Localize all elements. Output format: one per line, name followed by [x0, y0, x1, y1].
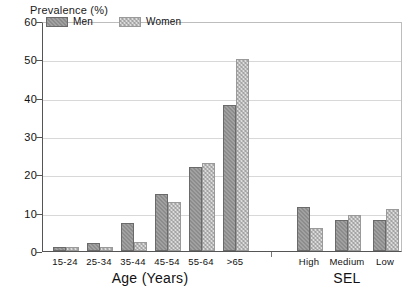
x-tick-label: 45-54: [154, 256, 179, 267]
bar-age-4554-women: [168, 202, 181, 251]
y-tick-mark: [36, 60, 42, 61]
bar-age-1524-men: [53, 247, 66, 251]
y-tick-label: 20: [11, 169, 37, 181]
y-tick-label: 30: [11, 131, 37, 143]
bar-age-2534-women: [100, 247, 113, 251]
plot-area: [42, 22, 402, 252]
bar-sel-High-men: [297, 207, 310, 251]
y-tick-mark: [36, 252, 42, 253]
y-tick-label: 40: [11, 93, 37, 105]
x-tick-label: 55-64: [188, 256, 213, 267]
legend-label-men: Men: [73, 16, 93, 27]
x-tick-label: Medium: [330, 256, 365, 267]
legend-entry-men: Men: [46, 16, 93, 27]
group-title-age: Age (Years): [112, 270, 189, 286]
legend-label-women: Women: [146, 16, 181, 27]
bar-sel-High-women: [310, 228, 323, 251]
bar-sel-Medium-men: [335, 220, 348, 251]
y-tick-label: 0: [11, 246, 37, 258]
x-tick-label: High: [299, 256, 319, 267]
x-tick-label: 25-34: [86, 256, 111, 267]
gridline: [43, 61, 401, 62]
x-tick-label: >65: [227, 256, 244, 267]
y-tick-mark: [36, 214, 42, 215]
bar-age-65-men: [223, 105, 236, 251]
legend-swatch-women-icon: [119, 17, 141, 27]
chart-legend: Men Women: [46, 16, 181, 27]
bar-sel-Low-women: [386, 209, 399, 251]
y-tick-mark: [36, 99, 42, 100]
x-axis-separator-tick: [271, 252, 272, 257]
legend-entry-women: Women: [119, 16, 181, 27]
bar-age-1524-women: [66, 247, 79, 251]
y-tick-label: 10: [11, 208, 37, 220]
y-tick-mark: [36, 137, 42, 138]
x-tick-label: Low: [376, 256, 394, 267]
y-axis-title: Prevalence (%): [30, 4, 108, 16]
bar-age-5564-women: [202, 163, 215, 251]
y-tick-label: 50: [11, 54, 37, 66]
group-title-sel: SEL: [333, 270, 360, 286]
bar-age-65-women: [236, 59, 249, 251]
bar-age-3544-women: [134, 242, 147, 251]
bar-sel-Medium-women: [348, 215, 361, 251]
y-tick-label: 60: [11, 16, 37, 28]
bar-age-3544-men: [121, 223, 134, 251]
legend-swatch-men-icon: [46, 17, 68, 27]
y-tick-mark: [36, 22, 42, 23]
bar-age-4554-men: [155, 194, 168, 252]
bar-sel-Low-men: [373, 220, 386, 251]
gridline: [43, 176, 401, 177]
y-tick-mark: [36, 175, 42, 176]
bar-age-5564-men: [189, 167, 202, 251]
bar-age-2534-men: [87, 243, 100, 251]
chart-figure: Prevalence (%) 0102030405060 15-2425-343…: [0, 0, 415, 297]
x-tick-label: 15-24: [52, 256, 77, 267]
gridline: [43, 138, 401, 139]
gridline: [43, 100, 401, 101]
x-tick-label: 35-44: [120, 256, 145, 267]
